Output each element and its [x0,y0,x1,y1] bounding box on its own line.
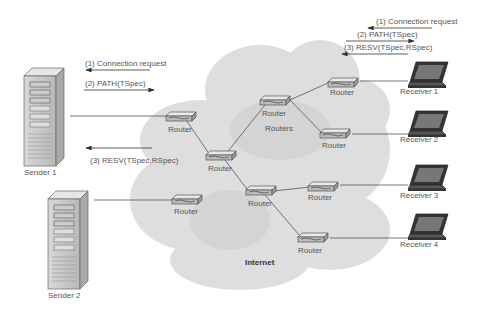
router-icon [328,78,358,87]
receiver-2-laptop-icon [408,111,448,137]
receiver-1-laptop-icon [408,62,448,88]
sender-1-server-icon [24,68,64,166]
receiver-msg-path: (2) PATH(TSpec) [357,30,418,40]
receiver-msg-connection-request: (1) Connection request [376,17,457,27]
router-icon [166,112,196,121]
sender-msg-path: (2) PATH(TSpec) [85,79,146,89]
internet-label: Internet [245,258,274,268]
router-icon [298,233,328,242]
sender-2-server-icon [48,191,88,289]
router-label: Router [168,125,192,135]
receiver-4-laptop-icon [408,214,448,240]
sender-1-label: Sender 1 [24,168,56,178]
sender-msg-resv: (3) RESV(TSpec,RSpec) [90,156,178,166]
router-label: Router [208,164,232,174]
router-icon [320,129,350,138]
router-label: Router [308,193,332,203]
router-label: Router [248,199,272,209]
router-label: Router [262,109,286,119]
router-icon [308,182,338,191]
receiver-3-label: Receiver 3 [400,191,438,201]
sender-2-label: Sender 2 [48,291,80,301]
router-icon [172,195,202,204]
receiver-4-label: Receiver 4 [400,240,438,250]
router-label: Router [298,246,322,256]
router-label: Router [174,207,198,217]
sender-msg-connection-request: (1) Connection request [85,59,166,69]
receiver-3-laptop-icon [408,165,448,191]
router-icon [260,96,290,105]
router-label: Router [322,141,346,151]
router-icon [206,151,236,160]
router-label: Router [330,88,354,98]
router-icon [246,186,276,195]
routers-label: Routers [265,124,293,134]
receiver-2-label: Receiver 2 [400,135,438,145]
receiver-msg-resv: (3) RESV(TSpec,RSpec) [344,43,432,53]
receiver-1-label: Receiver 1 [400,87,438,97]
